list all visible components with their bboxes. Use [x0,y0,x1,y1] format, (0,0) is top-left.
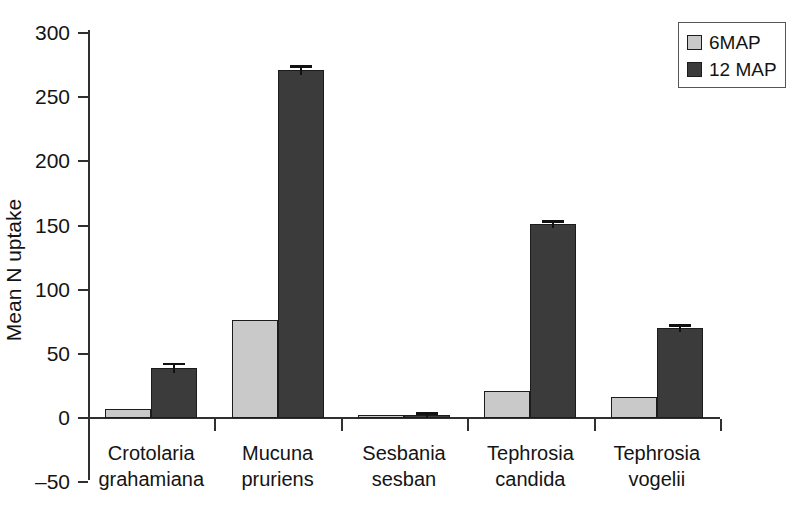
bar-series-6map [232,320,278,418]
bar-series-6map [611,397,657,418]
error-bar-cap [669,324,691,327]
x-tick-mark [467,419,469,431]
x-tick-mark [214,419,216,431]
chart-legend: 6MAP 12 MAP [678,22,786,88]
legend-swatch-icon [687,62,702,77]
y-tick-mark [78,32,88,34]
category-label: Tephrosiavogelii [577,440,737,492]
bar-series-6map [358,415,404,418]
y-tick-label: 200 [0,149,70,173]
error-bar-cap [542,220,564,223]
x-tick-mark [88,419,90,431]
y-axis-line [88,30,90,480]
y-tick-mark [78,353,88,355]
y-tick-label: 300 [0,21,70,45]
bar-series-6map [484,391,530,418]
legend-swatch-icon [687,35,702,50]
y-tick-label: 50 [0,342,70,366]
error-bar-cap [163,363,185,366]
y-tick-mark [78,289,88,291]
category-label-line: Tephrosia [577,440,737,466]
category-label-line: vogelii [577,466,737,492]
legend-label: 6MAP [709,32,761,54]
y-tick-label: 250 [0,85,70,109]
y-tick-label: 0 [0,406,70,430]
bar-chart: Mean N uptake –50050100150200250300 Crot… [0,0,788,516]
bar-series-12map [278,70,324,418]
error-bar-cap [416,412,438,415]
y-tick-mark [78,417,88,419]
bar-series-12map [530,224,576,418]
y-tick-label: 150 [0,214,70,238]
y-tick-mark [78,160,88,162]
y-tick-mark [78,225,88,227]
bar-series-12map [151,368,197,418]
legend-item-0[interactable]: 6MAP [687,29,785,56]
bar-series-6map [105,409,151,418]
x-tick-mark [341,419,343,431]
legend-item-1[interactable]: 12 MAP [687,56,785,83]
error-bar-cap [290,65,312,68]
x-tick-mark [594,419,596,431]
legend-label: 12 MAP [709,59,777,81]
bar-series-12map [657,328,703,418]
x-tick-mark [720,419,722,431]
y-tick-label: 100 [0,278,70,302]
y-tick-mark [78,96,88,98]
y-tick-label: –50 [0,470,70,494]
